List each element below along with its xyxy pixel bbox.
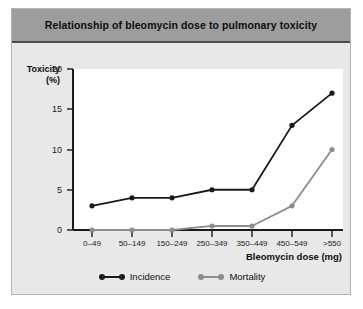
data-point (249, 187, 254, 192)
data-point (209, 223, 214, 228)
y-tick-label-15: 15 (38, 104, 62, 114)
data-point (169, 195, 174, 200)
y-tick-label-20: 20 (38, 64, 62, 74)
y-tick-label-0: 0 (38, 225, 62, 235)
data-point (89, 203, 94, 208)
legend-item-mortality: Mortality (198, 271, 265, 282)
chart-figure: Relationship of bleomycin dose to pulmon… (11, 8, 351, 295)
data-point (249, 223, 254, 228)
legend-marker-incidence (99, 273, 125, 281)
legend-item-incidence: Incidence (99, 271, 171, 282)
chart-legend: Incidence Mortality (12, 271, 352, 282)
data-point (289, 203, 294, 208)
x-tick-label-6: >550 (306, 239, 358, 248)
y-tick-label-5: 5 (38, 185, 62, 195)
data-point (129, 195, 134, 200)
legend-label-incidence: Incidence (130, 271, 171, 282)
y-tick-label-10: 10 (38, 145, 62, 155)
plot-container: Toxicity (%) 20 15 (12, 43, 352, 296)
data-point (169, 227, 174, 232)
legend-label-mortality: Mortality (229, 271, 265, 282)
page-title: Relationship of bleomycin dose to pulmon… (45, 19, 317, 31)
data-point (329, 91, 334, 96)
data-point (129, 227, 134, 232)
chart-title-bar: Relationship of bleomycin dose to pulmon… (12, 9, 350, 43)
data-point (209, 187, 214, 192)
data-point (89, 227, 94, 232)
data-point (329, 147, 334, 152)
x-axis-title: Bleomycin dose (mg) (152, 251, 342, 262)
data-point (289, 123, 294, 128)
series-incidence (89, 91, 334, 209)
legend-marker-mortality (198, 273, 224, 281)
series-layer (89, 91, 334, 233)
